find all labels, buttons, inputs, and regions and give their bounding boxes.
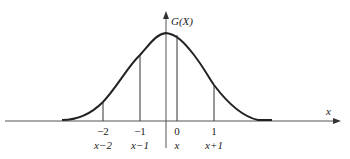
tick-label-minus-2: −2 [97,125,109,137]
y-axis-label: G(X) [171,15,193,28]
x-axis-label: x [325,105,331,117]
x-axis-arrow-icon [333,118,341,124]
bell-curve [62,33,272,120]
normal-curve-diagram: G(X) x −2 −1 0 1 x−2 x−1 x x+1 [0,0,350,159]
tick-sublabel-x-minus-2: x−2 [93,139,112,151]
y-axis-arrow-icon [163,11,169,19]
tick-label-plus-1: 1 [211,125,217,137]
tick-label-0: 0 [174,125,180,137]
tick-sublabel-x-minus-1: x−1 [130,139,149,151]
tick-label-minus-1: −1 [134,125,146,137]
tick-sublabel-x-plus-1: x+1 [204,139,223,151]
tick-sublabel-x: x [174,139,180,151]
